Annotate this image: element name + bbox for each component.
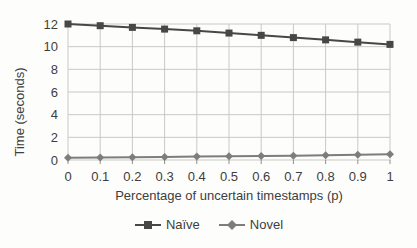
svg-text:0: 0: [51, 153, 58, 168]
svg-text:0.9: 0.9: [349, 169, 367, 184]
svg-text:0: 0: [64, 169, 71, 184]
svg-text:2: 2: [51, 130, 58, 145]
svg-text:0.8: 0.8: [317, 169, 335, 184]
svg-text:0.6: 0.6: [252, 169, 270, 184]
svg-text:0.5: 0.5: [220, 169, 238, 184]
legend-label-naive: Naïve: [166, 217, 200, 232]
svg-text:12: 12: [44, 17, 58, 32]
svg-text:0.3: 0.3: [156, 169, 174, 184]
naive-series-marker: [134, 219, 162, 231]
legend-item-novel: Novel: [218, 217, 283, 232]
y-axis-title: Time (seconds): [12, 67, 27, 156]
x-axis-title: Percentage of uncertain timestamps (p): [115, 188, 343, 203]
svg-text:1: 1: [386, 169, 393, 184]
svg-text:4: 4: [51, 107, 58, 122]
novel-series-marker: [218, 219, 246, 231]
svg-text:0.7: 0.7: [284, 169, 302, 184]
svg-text:6: 6: [51, 85, 58, 100]
svg-text:0.1: 0.1: [91, 169, 109, 184]
chart-legend: Naïve Novel: [0, 217, 417, 232]
svg-text:0.4: 0.4: [188, 169, 206, 184]
legend-label-novel: Novel: [250, 217, 283, 232]
svg-text:10: 10: [44, 39, 58, 54]
svg-text:8: 8: [51, 62, 58, 77]
legend-item-naive: Naïve: [134, 217, 200, 232]
plot-area: 02468101200.10.20.30.40.50.60.70.80.91 T…: [0, 0, 417, 248]
svg-text:0.2: 0.2: [123, 169, 141, 184]
gridlines: [68, 24, 390, 160]
chart-figure: 02468101200.10.20.30.40.50.60.70.80.91 T…: [0, 0, 417, 248]
